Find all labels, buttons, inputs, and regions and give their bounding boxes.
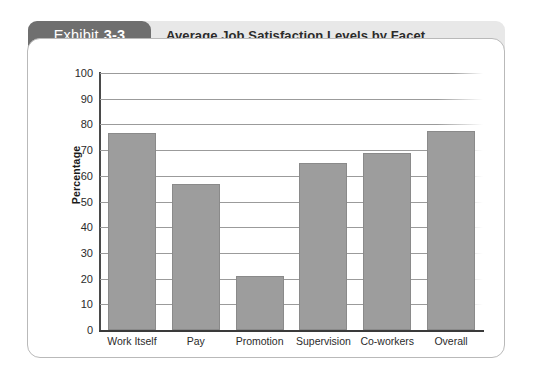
x-axis-tick-label: Promotion: [236, 335, 284, 347]
y-axis-tick-label: 0: [87, 324, 93, 336]
y-axis-tick-label: 90: [81, 93, 93, 105]
plot-area: 0102030405060708090100 Work ItselfPayPro…: [100, 73, 483, 330]
x-axis-tick-label: Overall: [434, 335, 467, 347]
bar-slot: [419, 73, 483, 330]
chart-container: Percentage 0102030405060708090100 Work I…: [28, 39, 506, 359]
x-axis-tick-label: Co-workers: [360, 335, 414, 347]
y-axis-tick-label: 40: [81, 221, 93, 233]
bar: [172, 184, 220, 330]
y-axis-tick-label: 30: [81, 247, 93, 259]
bar-slot: [228, 73, 292, 330]
bar-slot: [355, 73, 419, 330]
bar: [427, 131, 475, 330]
y-axis-tick-label: 80: [81, 118, 93, 130]
x-axis-tick-label: Work Itself: [107, 335, 156, 347]
y-axis-tick-label: 20: [81, 273, 93, 285]
x-axis-line: [99, 330, 484, 332]
y-axis-tick-label: 100: [75, 67, 93, 79]
bar-slot: [164, 73, 228, 330]
bar-slot: [100, 73, 164, 330]
y-axis-tick-label: 50: [81, 196, 93, 208]
bar: [363, 153, 411, 330]
bar: [299, 163, 347, 330]
exhibit-card: Percentage 0102030405060708090100 Work I…: [27, 38, 505, 358]
y-axis-tick-label: 60: [81, 170, 93, 182]
bars-layer: [100, 73, 483, 330]
y-axis-tick-label: 10: [81, 298, 93, 310]
x-axis-tick-label: Pay: [187, 335, 205, 347]
bar: [236, 276, 284, 330]
y-axis-tick-label: 70: [81, 144, 93, 156]
x-axis-tick-label: Supervision: [296, 335, 351, 347]
bar-slot: [292, 73, 356, 330]
bar: [108, 133, 156, 330]
